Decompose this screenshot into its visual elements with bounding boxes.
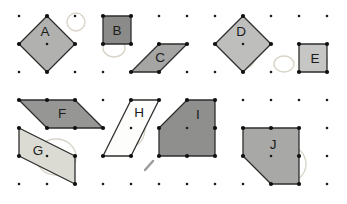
shape-label-A: A: [40, 24, 49, 39]
grid-dot: [214, 15, 217, 18]
vertex-dot: [73, 182, 77, 186]
vertex-dot: [17, 154, 21, 158]
vertex-dot: [185, 42, 189, 46]
vertex-dot: [101, 42, 105, 46]
grid-dot: [326, 99, 329, 102]
dot-grid-canvas: ABCDEFGHIJ: [0, 0, 347, 204]
vertex-dot: [129, 42, 133, 46]
vertex-dot: [129, 70, 133, 74]
grid-dot: [130, 183, 133, 186]
grid-dot: [18, 71, 21, 74]
grid-dot: [102, 183, 105, 186]
shape-label-B: B: [112, 23, 121, 38]
grid-dot: [46, 183, 49, 186]
vertex-dot: [101, 14, 105, 18]
grid-dot: [186, 71, 189, 74]
vertex-dot: [269, 126, 273, 130]
grid-dot: [326, 127, 329, 130]
grid-dot: [46, 155, 49, 158]
grid-dot: [46, 43, 49, 46]
grid-dot: [298, 99, 301, 102]
grid-dot: [270, 71, 273, 74]
vertex-dot: [297, 126, 301, 130]
vertex-dot: [157, 70, 161, 74]
grid-dot: [270, 15, 273, 18]
vertex-dot: [45, 98, 49, 102]
grid-dot: [158, 15, 161, 18]
grid-dot: [74, 71, 77, 74]
shape-label-H: H: [134, 105, 144, 120]
grid-dot: [74, 15, 77, 18]
grid-dot: [270, 99, 273, 102]
vertex-dot: [129, 14, 133, 18]
vertex-dot: [185, 98, 189, 102]
vertex-dot: [241, 126, 245, 130]
pencil-circle-mark: [274, 56, 294, 72]
vertex-dot: [297, 182, 301, 186]
grid-dot: [158, 183, 161, 186]
vertex-dot: [73, 98, 77, 102]
vertex-dot: [213, 126, 217, 130]
vertex-dot: [325, 42, 329, 46]
vertex-dot: [73, 42, 77, 46]
vertex-dot: [297, 154, 301, 158]
vertex-dot: [241, 154, 245, 158]
shape-label-F: F: [58, 106, 66, 121]
vertex-dot: [213, 42, 217, 46]
vertex-dot: [129, 98, 133, 102]
vertex-dot: [213, 154, 217, 158]
grid-dot: [270, 155, 273, 158]
grid-dot: [186, 183, 189, 186]
shape-label-G: G: [33, 143, 44, 158]
vertex-dot: [17, 98, 21, 102]
vertex-dot: [269, 42, 273, 46]
grid-dot: [326, 15, 329, 18]
vertex-dot: [213, 98, 217, 102]
grid-dot: [298, 15, 301, 18]
grid-dot: [18, 15, 21, 18]
vertex-dot: [129, 154, 133, 158]
vertex-dot: [157, 98, 161, 102]
grid-dot: [214, 183, 217, 186]
grid-dot: [102, 99, 105, 102]
vertex-dot: [241, 70, 245, 74]
shape-label-I: I: [196, 107, 200, 122]
vertex-dot: [297, 70, 301, 74]
vertex-dot: [157, 154, 161, 158]
vertex-dot: [17, 42, 21, 46]
vertex-dot: [73, 154, 77, 158]
vertex-dot: [157, 126, 161, 130]
grid-dot: [242, 43, 245, 46]
vertex-dot: [269, 182, 273, 186]
vertex-dot: [45, 126, 49, 130]
vertex-dot: [241, 14, 245, 18]
grid-dot: [242, 183, 245, 186]
grid-dot: [102, 71, 105, 74]
shape-label-E: E: [310, 51, 319, 66]
vertex-dot: [45, 70, 49, 74]
grid-dot: [214, 71, 217, 74]
vertex-dot: [73, 126, 77, 130]
vertex-dot: [185, 154, 189, 158]
grid-dot: [326, 155, 329, 158]
geometry-worksheet-figure: ABCDEFGHIJ: [0, 0, 347, 204]
pencil-slash-mark: [145, 161, 153, 170]
vertex-dot: [45, 14, 49, 18]
vertex-dot: [101, 126, 105, 130]
vertex-dot: [17, 126, 21, 130]
vertex-dot: [325, 70, 329, 74]
grid-dot: [186, 15, 189, 18]
grid-dot: [326, 183, 329, 186]
vertex-dot: [101, 154, 105, 158]
vertex-dot: [297, 42, 301, 46]
grid-dot: [18, 183, 21, 186]
shape-label-C: C: [155, 50, 165, 65]
grid-dot: [242, 99, 245, 102]
grid-dot: [186, 127, 189, 130]
shape-label-D: D: [236, 24, 246, 39]
vertex-dot: [157, 42, 161, 46]
shape-label-J: J: [270, 137, 277, 152]
grid-dot: [130, 127, 133, 130]
